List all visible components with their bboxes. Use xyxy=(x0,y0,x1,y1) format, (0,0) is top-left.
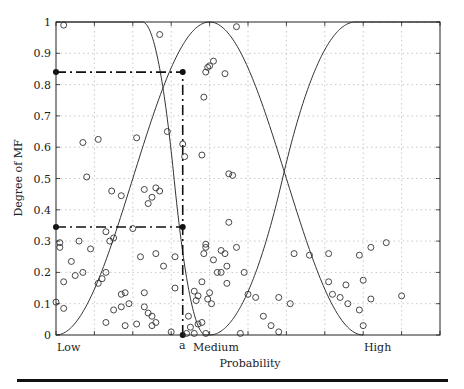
scatter-point xyxy=(368,296,374,302)
scatter-point xyxy=(224,263,230,269)
scatter-point xyxy=(329,291,335,297)
scatter-point xyxy=(356,307,362,313)
y-tick-label: 0.9 xyxy=(34,47,52,60)
x-label-high: High xyxy=(364,341,391,354)
y-tick-label: 0.8 xyxy=(34,79,52,92)
scatter-point xyxy=(149,323,155,329)
scatter-point xyxy=(80,140,86,146)
scatter-point xyxy=(199,152,205,158)
scatter-point xyxy=(164,129,170,135)
y-tick-label: 0.2 xyxy=(34,266,52,279)
y-tick-label: 0.3 xyxy=(34,235,52,248)
scatter-points xyxy=(53,22,405,336)
x-axis-label: Probability xyxy=(219,357,281,370)
scatter-point xyxy=(145,201,151,207)
scatter-point xyxy=(118,291,124,297)
scatter-point xyxy=(172,254,178,260)
scatter-point xyxy=(326,279,332,285)
scatter-point xyxy=(107,238,113,244)
scatter-point xyxy=(95,136,101,142)
scatter-point xyxy=(343,282,349,288)
y-axis-label: Degree of MF xyxy=(12,139,25,217)
membership-function-chart: 00.10.20.30.40.50.60.70.80.91 Degree of … xyxy=(0,0,464,389)
scatter-point xyxy=(210,58,216,64)
scatter-point xyxy=(326,251,332,257)
scatter-point xyxy=(141,290,147,296)
scatter-point xyxy=(383,240,389,246)
marker-dot xyxy=(180,69,186,75)
scatter-point xyxy=(226,171,232,177)
marker-dot xyxy=(180,224,186,230)
scatter-point xyxy=(137,254,143,260)
scatter-point xyxy=(161,263,167,269)
scatter-point xyxy=(199,279,205,285)
scatter-point xyxy=(149,194,155,200)
scatter-point xyxy=(337,294,343,300)
y-tick-label: 0.7 xyxy=(34,110,52,123)
scatter-point xyxy=(233,244,239,250)
scatter-point xyxy=(185,313,191,319)
scatter-point xyxy=(118,304,124,310)
scatter-point xyxy=(260,313,266,319)
scatter-point xyxy=(222,251,228,257)
x-label-medium: Medium xyxy=(193,341,239,354)
scatter-point xyxy=(153,251,159,257)
scatter-point xyxy=(84,174,90,180)
scatter-point xyxy=(218,247,224,253)
scatter-point xyxy=(203,330,209,336)
scatter-point xyxy=(187,324,193,330)
scatter-point xyxy=(68,258,74,264)
scatter-point xyxy=(210,257,216,263)
scatter-point xyxy=(141,186,147,192)
scatter-point xyxy=(134,321,140,327)
scatter-point xyxy=(268,323,274,329)
scatter-point xyxy=(118,193,124,199)
scatter-point xyxy=(199,319,205,325)
scatter-point xyxy=(230,172,236,178)
scatter-point xyxy=(61,279,67,285)
scatter-point xyxy=(134,135,140,141)
scatter-point xyxy=(153,185,159,191)
y-tick-label: 0.6 xyxy=(34,141,52,154)
y-tick-label: 0 xyxy=(44,329,51,342)
scatter-point xyxy=(182,154,188,160)
scatter-point xyxy=(360,277,366,283)
scatter-point xyxy=(253,294,259,300)
scatter-point xyxy=(88,246,94,252)
y-tick-label: 0.5 xyxy=(34,173,52,186)
scatter-point xyxy=(356,252,362,258)
scatter-point xyxy=(222,71,228,77)
scatter-point xyxy=(72,273,78,279)
scatter-point xyxy=(61,305,67,311)
scatter-point xyxy=(233,24,239,30)
y-tick-label: 0.4 xyxy=(34,204,52,217)
scatter-point xyxy=(276,329,282,335)
scatter-point xyxy=(103,319,109,325)
scatter-point xyxy=(157,32,163,38)
scatter-point xyxy=(61,22,67,28)
scatter-point xyxy=(368,244,374,250)
scatter-point xyxy=(205,296,211,302)
scatter-point xyxy=(276,294,282,300)
scatter-point xyxy=(157,188,163,194)
scatter-point xyxy=(80,269,86,275)
scatter-point xyxy=(224,280,230,286)
scatter-point xyxy=(145,310,151,316)
scatter-point xyxy=(122,290,128,296)
bottom-rule xyxy=(17,379,448,382)
scatter-point xyxy=(111,307,117,313)
scatter-point xyxy=(191,330,197,336)
y-tick-label: 0.1 xyxy=(34,298,52,311)
scatter-point xyxy=(172,285,178,291)
scatter-point xyxy=(122,323,128,329)
scatter-point xyxy=(237,330,243,336)
scatter-point xyxy=(201,251,207,257)
scatter-point xyxy=(109,188,115,194)
scatter-point xyxy=(149,313,155,319)
scatter-point xyxy=(130,226,136,232)
scatter-point xyxy=(153,319,159,325)
x-label-low: Low xyxy=(57,341,81,354)
scatter-point xyxy=(141,304,147,310)
scatter-point xyxy=(291,251,297,257)
x-label-a: a xyxy=(179,339,186,352)
